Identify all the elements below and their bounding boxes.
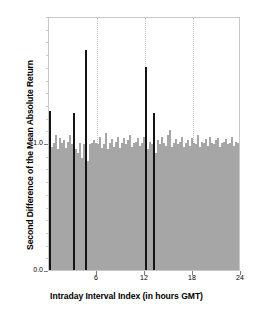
x-tick-label: 12	[140, 274, 148, 281]
y-tick-mark	[44, 271, 48, 272]
y-minor-tick	[46, 246, 48, 247]
y-minor-tick	[46, 81, 48, 82]
y-minor-tick	[46, 68, 48, 69]
y-minor-tick	[46, 93, 48, 94]
y-minor-tick	[46, 17, 48, 18]
bar	[145, 67, 146, 270]
y-minor-tick	[46, 182, 48, 183]
y-tick-label: 0.0	[33, 266, 43, 273]
y-axis-title: Second Difference of the Mean Absolute R…	[25, 25, 35, 285]
y-minor-tick	[46, 195, 48, 196]
chart-figure: Second Difference of the Mean Absolute R…	[0, 0, 253, 316]
bar	[73, 113, 74, 270]
y-minor-tick	[46, 233, 48, 234]
y-minor-tick	[46, 208, 48, 209]
bar	[239, 140, 240, 270]
y-minor-tick	[46, 220, 48, 221]
y-minor-tick	[46, 106, 48, 107]
y-minor-tick	[46, 258, 48, 259]
x-tick-label: 6	[94, 274, 98, 281]
bar	[85, 50, 86, 270]
y-minor-tick	[46, 157, 48, 158]
y-minor-tick	[46, 30, 48, 31]
x-tick-label: 24	[236, 274, 244, 281]
bar	[153, 113, 154, 270]
x-tick-label: 18	[188, 274, 196, 281]
y-minor-tick	[46, 42, 48, 43]
y-minor-tick	[46, 169, 48, 170]
x-axis-title: Intraday Interval Index (in hours GMT)	[0, 291, 253, 301]
y-minor-tick	[46, 55, 48, 56]
y-minor-tick	[46, 119, 48, 120]
y-minor-tick	[46, 131, 48, 132]
y-tick-mark	[44, 144, 48, 145]
y-tick-label: 1.0	[33, 139, 43, 146]
plot-area	[48, 17, 240, 271]
bar	[49, 111, 50, 270]
